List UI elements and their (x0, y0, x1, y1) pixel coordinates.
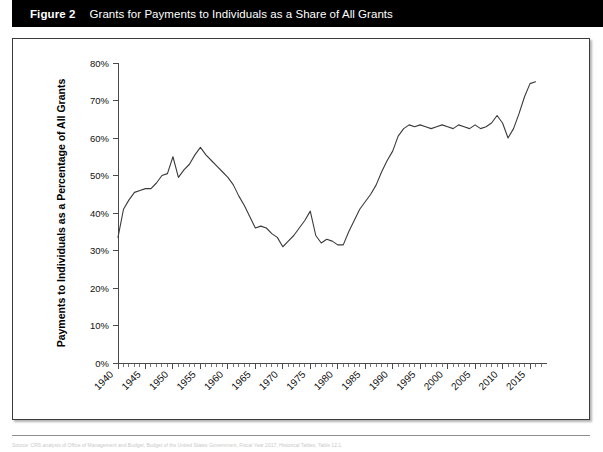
x-axis-tick-label: 2000 (422, 368, 446, 392)
x-axis-tick-label-group: 1985 (339, 368, 363, 392)
y-axis-title-group: Payments to Individuals as a Percentage … (55, 79, 67, 348)
x-axis-tick-label: 1980 (312, 368, 336, 392)
x-axis-tick-label: 1990 (367, 368, 391, 392)
x-axis-tick-label: 2015 (504, 368, 528, 392)
x-axis-tick-label: 1950 (147, 368, 171, 392)
y-axis-tick-label: 70% (90, 95, 110, 106)
y-axis-tick-label: 60% (90, 133, 110, 144)
x-axis-tick-label: 2010 (476, 368, 500, 392)
y-axis-tick-label: 50% (90, 170, 110, 181)
y-axis-tick-label: 20% (90, 283, 110, 294)
data-series-line-0 (118, 82, 536, 247)
chart-frame: 0%10%20%30%40%50%60%70%80%19401945195019… (12, 38, 590, 420)
x-axis-tick-label: 1995 (394, 368, 418, 392)
x-axis-tick-label-group: 2015 (504, 368, 528, 392)
figure-label: Figure 2 (30, 8, 76, 20)
x-axis-tick-label-group: 1960 (202, 368, 226, 392)
y-axis-tick-label: 80% (90, 58, 110, 69)
x-axis-tick-label: 2005 (449, 368, 473, 392)
y-axis-tick-label: 10% (90, 320, 110, 331)
plot-area: 0%10%20%30%40%50%60%70%80%19401945195019… (13, 39, 591, 421)
x-axis-tick-label: 1975 (284, 368, 308, 392)
y-axis-tick-label: 40% (90, 208, 110, 219)
bottom-divider (12, 435, 590, 436)
x-axis-tick-label-group: 1950 (147, 368, 171, 392)
figure-header-bar: Figure 2 Grants for Payments to Individu… (12, 0, 603, 27)
line-chart: 0%10%20%30%40%50%60%70%80%19401945195019… (13, 39, 591, 421)
x-axis-tick-label-group: 1980 (312, 368, 336, 392)
y-axis-tick-label: 30% (90, 245, 110, 256)
figure-title: Grants for Payments to Individuals as a … (90, 8, 393, 20)
x-axis-tick-label-group: 2000 (422, 368, 446, 392)
x-axis-tick-label: 1985 (339, 368, 363, 392)
x-axis-tick-label-group: 1955 (174, 368, 198, 392)
x-axis-tick-label-group: 1995 (394, 368, 418, 392)
x-axis-tick-label: 1940 (92, 368, 116, 392)
y-axis-tick-label: 0% (95, 358, 109, 369)
x-axis-tick-label: 1965 (229, 368, 253, 392)
x-axis-tick-label-group: 1970 (257, 368, 281, 392)
x-axis-tick-label-group: 1945 (119, 368, 143, 392)
y-axis-title: Payments to Individuals as a Percentage … (55, 79, 67, 348)
x-axis-tick-label-group: 2005 (449, 368, 473, 392)
x-axis-tick-label: 1970 (257, 368, 281, 392)
x-axis-tick-label: 1960 (202, 368, 226, 392)
x-axis-tick-label-group: 1940 (92, 368, 116, 392)
x-axis-tick-label-group: 1965 (229, 368, 253, 392)
source-note: Source: CRS analysis of Office of Manage… (12, 442, 590, 448)
x-axis-tick-label: 1955 (174, 368, 198, 392)
x-axis-tick-label: 1945 (119, 368, 143, 392)
x-axis-tick-label-group: 1990 (367, 368, 391, 392)
x-axis-tick-label-group: 2010 (476, 368, 500, 392)
x-axis-tick-label-group: 1975 (284, 368, 308, 392)
